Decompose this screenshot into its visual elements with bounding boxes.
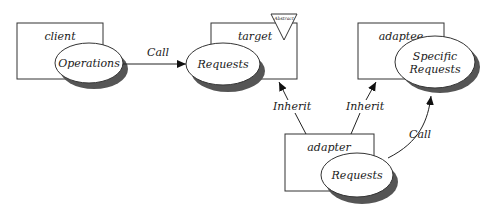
class-client: client Operations: [17, 23, 128, 89]
edge-call-adapter-adaptee: Call: [388, 96, 431, 158]
edge-label-call: Call: [147, 46, 169, 59]
class-adapter: adapter Requests: [285, 134, 398, 204]
edge-label-inherit-1: Inherit: [272, 100, 312, 113]
method-specific: Specific: [413, 50, 457, 63]
class-target: target Abstract Requests: [186, 14, 297, 92]
method-operations: Operations: [58, 57, 120, 70]
edge-label-inherit-2: Inherit: [345, 100, 385, 113]
method-requests-adapter: Requests: [330, 169, 382, 182]
method-requests-adaptee: Requests: [408, 63, 460, 76]
class-adaptee: adaptee Specific Requests: [358, 23, 480, 93]
method-requests-target: Requests: [196, 58, 248, 71]
edge-inherit-adapter-adaptee: Inherit: [345, 82, 385, 134]
edge-inherit-adapter-target: Inherit: [272, 82, 312, 134]
stereotype-abstract: Abstract: [273, 16, 294, 21]
class-name-adapter: adapter: [307, 141, 351, 154]
edge-label-call-2: Call: [409, 128, 431, 141]
edge-call-client-target: Call: [123, 46, 186, 64]
class-name-client: client: [44, 30, 76, 43]
adapter-diagram: client Operations Call target Abstract R…: [0, 0, 489, 217]
class-name-target: target: [238, 30, 273, 43]
